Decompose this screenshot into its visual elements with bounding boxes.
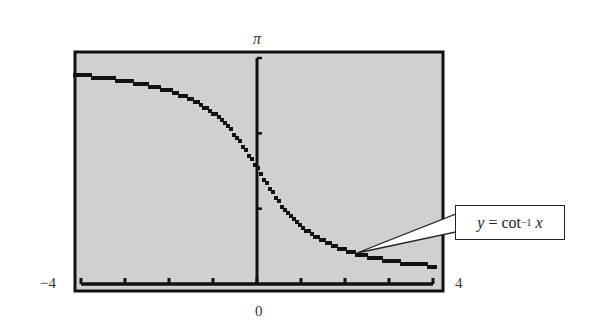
chart-figure: [0, 0, 592, 329]
callout-x: x: [536, 214, 543, 232]
callout-sup: −1: [521, 217, 532, 228]
plot-area: [75, 52, 443, 291]
x-min-label: −4: [40, 275, 56, 292]
callout-y: y: [477, 214, 484, 232]
y-max-label: π: [253, 30, 261, 48]
x-zero-label: 0: [255, 303, 263, 320]
callout-eq: = cot: [484, 214, 521, 232]
function-callout: y = cot−1 x: [455, 205, 565, 240]
x-max-label: 4: [455, 275, 463, 292]
